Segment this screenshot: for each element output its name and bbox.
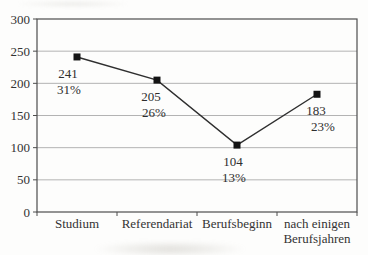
data-point-marker [74, 53, 81, 60]
x-axis-category-label: Berufsjahren [283, 231, 351, 246]
y-axis-tick-label: 0 [24, 205, 31, 220]
data-point-marker [314, 91, 321, 98]
data-point-marker [154, 77, 161, 84]
y-axis-tick-label: 50 [17, 172, 30, 187]
x-axis-category-label: Referendariat [122, 216, 193, 231]
y-axis-tick-label: 100 [11, 140, 31, 155]
data-label-value: 241 [58, 66, 78, 81]
y-axis-tick-label: 250 [11, 44, 31, 59]
data-label-percent: 31% [57, 82, 81, 97]
data-point-marker [234, 142, 241, 149]
data-label-percent: 23% [311, 119, 335, 134]
data-label-percent: 26% [142, 105, 166, 120]
x-axis-category-label: Berufsbeginn [202, 216, 273, 231]
x-axis-category-label: Studium [55, 216, 99, 231]
data-label-value: 183 [306, 103, 326, 118]
line-chart: 05010015020025030024131%20526%10413%1832… [0, 0, 368, 255]
y-axis-tick-label: 200 [11, 76, 31, 91]
series-line [77, 57, 317, 145]
y-axis-tick-label: 150 [11, 108, 31, 123]
y-axis-tick-label: 300 [11, 12, 31, 27]
data-label-percent: 13% [222, 170, 246, 185]
chart-figure: 05010015020025030024131%20526%10413%1832… [0, 0, 368, 255]
data-label-value: 205 [141, 89, 161, 104]
x-axis-category-label: nach einigen [284, 216, 351, 231]
data-label-value: 104 [223, 154, 243, 169]
